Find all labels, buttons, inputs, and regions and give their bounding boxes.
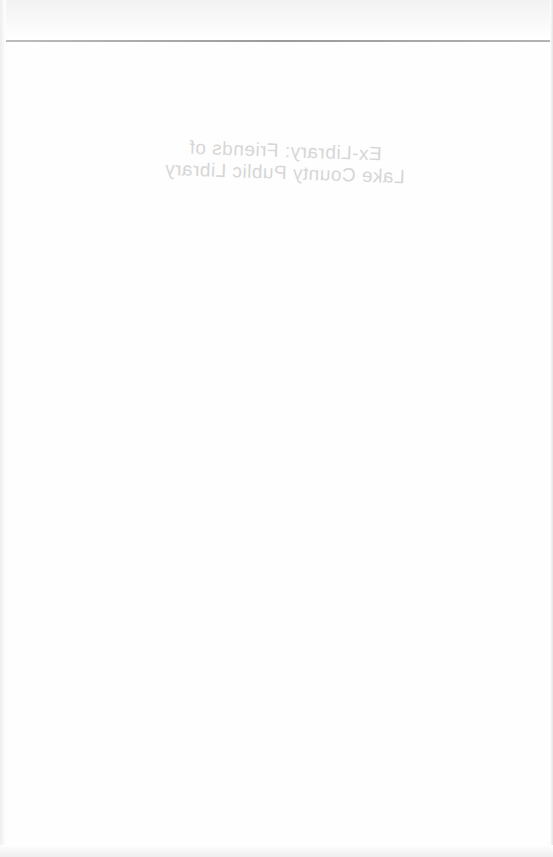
scanned-page: Ex-Library: Friends of Lake County Publi…	[0, 0, 553, 857]
top-margin-shadow	[0, 0, 553, 40]
left-page-edge	[0, 0, 6, 857]
top-rule	[0, 40, 553, 42]
bottom-margin-shadow	[0, 845, 553, 857]
library-stamp-bleed-through: Ex-Library: Friends of Lake County Publi…	[139, 135, 430, 189]
